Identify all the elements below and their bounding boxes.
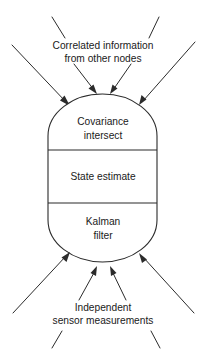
bottom-arrow-inner-left xyxy=(79,266,97,300)
top-arrow-inner-left xyxy=(74,64,97,94)
top-arrow-outer-left-shaft xyxy=(12,45,66,102)
bottom-stub-lines xyxy=(52,331,160,348)
top-arrow-outer-right xyxy=(139,42,195,105)
bottom-arrow-inner-left-shaft xyxy=(79,271,95,300)
bottom-label: Independent sensor measurements xyxy=(53,302,154,326)
bottom-label-line2: sensor measurements xyxy=(53,315,154,326)
fusion-node-diagram: Correlated information from other nodes … xyxy=(0,0,206,359)
covariance-intersect-line1: Covariance xyxy=(77,116,129,127)
bottom-stub-line-left xyxy=(52,331,62,348)
diagram-canvas: Correlated information from other nodes … xyxy=(0,0,206,359)
bottom-stub-line-right xyxy=(151,331,160,348)
bottom-arrow-outer-right-shaft xyxy=(143,257,194,313)
bottom-arrow-inner-right xyxy=(110,266,126,300)
node-section-state-estimate: State estimate xyxy=(70,171,135,182)
bottom-arrow-inner-left-head xyxy=(91,266,98,276)
top-label: Correlated information from other nodes xyxy=(53,40,154,64)
bottom-arrow-inner-right-head xyxy=(110,266,117,276)
kalman-filter-line1: Kalman xyxy=(86,216,121,227)
bottom-label-line1: Independent xyxy=(75,302,132,313)
top-stub-lines xyxy=(52,17,159,38)
bottom-arrow-outer-right-head xyxy=(139,253,147,263)
bottom-arrow-outer-right xyxy=(139,253,194,313)
top-arrow-inner-right xyxy=(110,64,131,94)
top-stub-line-right xyxy=(149,17,159,38)
kalman-filter-line2: filter xyxy=(93,230,113,241)
bottom-arrow-outer-left-shaft xyxy=(13,256,66,313)
bottom-arrow-inner-right-shaft xyxy=(112,271,126,300)
top-arrow-outer-left xyxy=(12,45,70,106)
state-estimate-line1: State estimate xyxy=(70,171,135,182)
top-arrow-inner-right-shaft xyxy=(113,64,131,90)
top-label-line1: Correlated information xyxy=(53,40,154,51)
bottom-arrow-outer-left xyxy=(13,252,70,313)
top-arrow-inner-left-shaft xyxy=(74,64,94,90)
top-label-line2: from other nodes xyxy=(64,53,141,64)
bottom-arrow-outer-left-head xyxy=(62,252,71,262)
top-arrow-outer-right-head xyxy=(139,95,147,105)
top-arrow-inner-left-head xyxy=(89,85,98,95)
top-stub-line-left xyxy=(52,17,65,38)
covariance-intersect-line2: intersect xyxy=(84,130,123,141)
top-arrow-outer-right-shaft xyxy=(143,42,195,101)
